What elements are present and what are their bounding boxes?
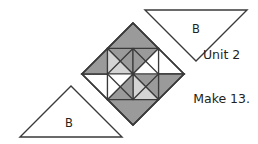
patch-corner-bottom	[108, 100, 159, 126]
pinwheel-block	[82, 23, 184, 125]
unit-caption-line-2: Make 13.	[193, 92, 250, 107]
unit-caption-line-1: Unit 2	[193, 48, 250, 63]
patch-corner-top	[108, 23, 159, 49]
triangle-b-bottom-left-label: B	[65, 116, 73, 130]
figure-canvas: B B	[0, 0, 258, 144]
unit-caption: Unit 2 Make 13.	[193, 18, 250, 136]
